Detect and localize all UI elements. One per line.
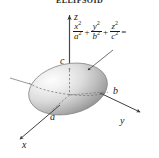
c-intercept-marker (69, 68, 71, 70)
x-axis-label: x (22, 140, 26, 150)
equation-operator-2: + (102, 27, 109, 37)
semi-axis-b-label: b (113, 86, 118, 96)
equation-term-z: z2 c2 (110, 22, 120, 42)
y-axis-line (100, 93, 140, 112)
semi-axis-c-label: c (60, 56, 64, 66)
equation-leader-line (88, 50, 113, 70)
ellipsoid-figure: ELLIPSOID (0, 0, 159, 158)
ellipsoid-surface (23, 56, 112, 123)
equation-term-y: y2 b2 (91, 22, 102, 42)
equation-operator-1: + (84, 27, 91, 37)
equation-term-z-denominator: c2 (110, 32, 120, 41)
equation-equals-sign: = (120, 27, 127, 37)
ellipsoid-equation: x2 a2 + y2 b2 + z2 c2 = (72, 22, 127, 42)
z-axis-label: z (74, 12, 78, 22)
equation-term-x-denominator: a2 (73, 32, 84, 41)
equation-term-x: x2 a2 (73, 22, 84, 42)
y-axis-label: y (120, 116, 124, 126)
equation-term-y-denominator: b2 (91, 32, 102, 41)
semi-axis-a-label: a (50, 112, 55, 122)
